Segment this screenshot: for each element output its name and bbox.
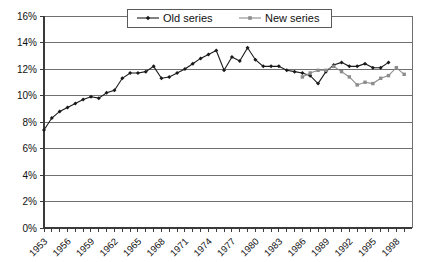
data-point-old-1985 — [293, 70, 297, 74]
chart-container: 0%2%4%6%8%10%12%14%16% 19531956195919621… — [0, 0, 423, 262]
legend-marker-new — [248, 16, 252, 20]
data-point-new-1993 — [355, 83, 358, 86]
x-tick-label-1983: 1983 — [262, 236, 285, 259]
y-tick-label-2%: 2% — [23, 196, 38, 207]
data-point-new-1989 — [324, 69, 327, 72]
data-point-old-1986 — [300, 71, 304, 75]
y-axis: 0%2%4%6%8%10%12%14%16% — [17, 11, 44, 234]
data-point-new-1987 — [309, 71, 312, 74]
data-point-new-1998 — [395, 66, 398, 69]
data-point-old-1958 — [81, 97, 85, 101]
x-tick-label-1956: 1956 — [50, 236, 73, 259]
y-tick-label-8%: 8% — [23, 117, 38, 128]
chart-legend: Old seriesNew series — [127, 9, 331, 27]
y-tick-label-14%: 14% — [17, 37, 37, 48]
data-point-new-1991 — [340, 70, 343, 73]
legend-label-old: Old series — [163, 12, 213, 24]
data-point-old-1994 — [363, 62, 367, 66]
y-tick-label-0%: 0% — [23, 223, 38, 234]
data-point-old-1982 — [269, 64, 273, 68]
data-point-old-1983 — [277, 64, 281, 68]
x-tick-label-1992: 1992 — [332, 236, 355, 259]
y-tick-label-4%: 4% — [23, 170, 38, 181]
x-tick-label-1989: 1989 — [309, 236, 332, 259]
x-tick-label-1968: 1968 — [144, 236, 167, 259]
data-point-new-1999 — [402, 73, 405, 76]
gridlines — [44, 16, 412, 228]
x-tick-label-1965: 1965 — [121, 236, 144, 259]
data-point-new-1988 — [316, 69, 319, 72]
x-tick-label-1962: 1962 — [97, 236, 120, 259]
x-tick-label-1959: 1959 — [74, 236, 97, 259]
data-point-old-1970 — [175, 71, 179, 75]
x-tick-label-1953: 1953 — [27, 236, 50, 259]
y-tick-label-6%: 6% — [23, 143, 38, 154]
data-point-old-1957 — [73, 101, 77, 105]
data-point-old-1991 — [340, 60, 344, 64]
data-point-new-1994 — [363, 81, 366, 84]
data-point-new-1996 — [379, 77, 382, 80]
data-point-old-1956 — [65, 105, 69, 109]
x-tick-label-1971: 1971 — [168, 236, 191, 259]
data-point-old-1975 — [214, 48, 218, 52]
data-point-old-1965 — [136, 71, 140, 75]
data-point-old-1992 — [347, 64, 351, 68]
x-tick-label-1986: 1986 — [285, 236, 308, 259]
x-tick-label-1977: 1977 — [215, 236, 238, 259]
y-tick-label-16%: 16% — [17, 11, 37, 22]
series-line-old — [44, 48, 389, 130]
data-series — [42, 46, 406, 132]
data-point-new-1995 — [371, 82, 374, 85]
x-tick-label-1995: 1995 — [356, 236, 379, 259]
data-point-old-1993 — [355, 64, 359, 68]
x-tick-label-1974: 1974 — [191, 236, 214, 259]
data-point-new-1990 — [332, 65, 335, 68]
x-axis: 1953195619591962196519681971197419771980… — [27, 228, 412, 258]
data-point-new-1997 — [387, 74, 390, 77]
data-point-old-1974 — [206, 52, 210, 56]
x-tick-label-1998: 1998 — [379, 236, 402, 259]
x-tick-label-1980: 1980 — [238, 236, 261, 259]
data-point-old-1969 — [167, 75, 171, 79]
data-point-new-1992 — [348, 75, 351, 78]
data-point-new-1986 — [301, 75, 304, 78]
y-tick-label-12%: 12% — [17, 64, 37, 75]
line-chart: 0%2%4%6%8%10%12%14%16% 19531956195919621… — [0, 0, 423, 262]
y-tick-label-10%: 10% — [17, 90, 37, 101]
legend-label-new: New series — [265, 12, 320, 24]
